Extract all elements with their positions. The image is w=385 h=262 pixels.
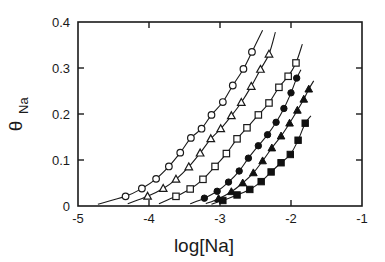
marker-open-triangle (144, 192, 152, 199)
marker-open-circle (188, 135, 195, 142)
marker-open-square (266, 100, 272, 106)
marker-open-triangle (238, 99, 246, 106)
marker-filled-square (287, 151, 293, 157)
x-tick-label: -5 (72, 211, 84, 226)
marker-open-square (223, 150, 229, 156)
marker-filled-square (258, 178, 264, 184)
marker-filled-circle (281, 105, 287, 111)
marker-group-4 (201, 75, 300, 201)
marker-filled-circle (201, 195, 207, 201)
marker-filled-square (278, 160, 284, 166)
x-axis-label-text: log[Na] (174, 235, 234, 256)
x-axis-label: log[Na] (174, 235, 234, 256)
marker-group-1 (122, 49, 255, 200)
marker-filled-circle (255, 143, 261, 149)
x-tick-label: -2 (285, 211, 297, 226)
marker-open-circle (177, 149, 184, 156)
scatter-plot: -5-4-3-2-1 00.10.20.30.4 log[Na] θ Na (0, 0, 385, 262)
marker-filled-triangle (294, 106, 302, 113)
marker-filled-triangle (300, 95, 308, 102)
y-tick-label: 0 (63, 199, 70, 214)
marker-group-2 (144, 50, 273, 199)
marker-filled-circle (293, 75, 299, 81)
data-markers (122, 49, 312, 204)
marker-open-square (173, 193, 179, 199)
x-tick-label: -1 (356, 211, 368, 226)
marker-open-circle (229, 82, 236, 89)
marker-open-circle (198, 125, 205, 132)
marker-open-circle (249, 49, 256, 56)
marker-filled-circle (214, 188, 220, 194)
marker-filled-triangle (305, 85, 313, 92)
marker-open-square (285, 73, 291, 79)
x-tick-label: -3 (214, 211, 226, 226)
figure-container: -5-4-3-2-1 00.10.20.30.4 log[Na] θ Na (0, 0, 385, 262)
marker-filled-triangle (286, 119, 294, 126)
marker-filled-square (302, 120, 308, 126)
marker-open-circle (220, 99, 227, 106)
plot-frame (78, 22, 362, 206)
y-tick-label: 0.2 (52, 107, 70, 122)
marker-filled-circle (264, 132, 270, 138)
marker-filled-circle (288, 90, 294, 96)
marker-open-square (234, 136, 240, 142)
marker-filled-circle (273, 119, 279, 125)
y-tick-label: 0.3 (52, 61, 70, 76)
marker-filled-circle (236, 168, 242, 174)
y-tick-label: 0.1 (52, 153, 70, 168)
marker-open-square (212, 163, 218, 169)
marker-filled-square (247, 186, 253, 192)
y-axis-label: θ Na (5, 97, 31, 132)
marker-filled-square (268, 169, 274, 175)
axis-ticks (78, 22, 362, 206)
y-axis-tick-labels: 00.10.20.30.4 (52, 15, 70, 214)
fit-curve-1 (98, 30, 263, 204)
marker-filled-circle (225, 179, 231, 185)
y-tick-label: 0.4 (52, 15, 70, 30)
x-axis-tick-labels: -5-4-3-2-1 (72, 211, 368, 226)
plot-frame-box (78, 22, 362, 206)
marker-open-square (276, 84, 282, 90)
marker-open-circle (208, 112, 215, 119)
marker-open-circle (153, 176, 160, 183)
marker-open-circle (166, 163, 173, 170)
marker-open-triangle (265, 50, 273, 57)
marker-open-square (293, 60, 299, 66)
marker-open-square (244, 125, 250, 131)
marker-open-triangle (257, 65, 265, 72)
marker-open-square (187, 186, 193, 192)
marker-filled-circle (245, 155, 251, 161)
y-axis-label-theta: θ (5, 121, 26, 132)
marker-open-square (200, 176, 206, 182)
marker-open-circle (240, 66, 247, 73)
marker-filled-square (234, 192, 240, 198)
marker-open-circle (139, 185, 146, 192)
marker-filled-square (220, 197, 226, 203)
y-axis-label-subscript: Na (16, 97, 31, 114)
marker-open-circle (122, 193, 129, 200)
x-tick-label: -4 (143, 211, 155, 226)
marker-filled-square (295, 137, 301, 143)
marker-open-triangle (247, 82, 255, 89)
marker-open-square (255, 112, 261, 118)
marker-open-triangle (159, 185, 167, 192)
